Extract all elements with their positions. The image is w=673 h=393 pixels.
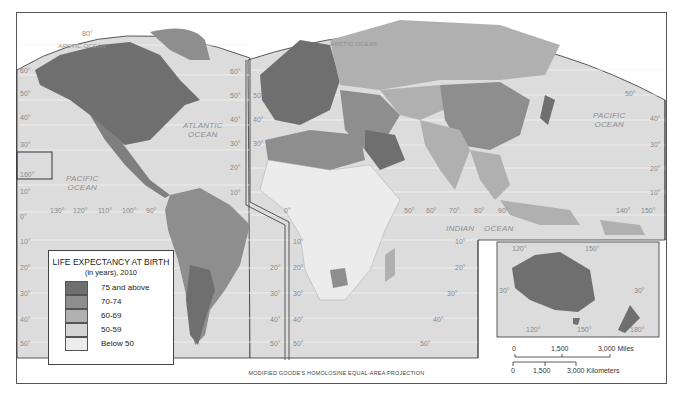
inset-lat-label: 30° [499, 287, 510, 294]
legend-swatch-50-59 [65, 323, 88, 337]
legend-label: 75 and above [101, 283, 150, 292]
lat-label-80: 80° [82, 30, 93, 37]
ocean-pacific-west-line2: OCEAN [66, 183, 98, 192]
inset-lon-label: 180° [630, 326, 644, 333]
legend-swatch-60-69 [65, 309, 88, 323]
inset-lon-label: 150° [585, 245, 599, 252]
lat-label: 10° [230, 189, 241, 196]
scale-miles-1500: 1,500 [551, 345, 569, 352]
lat-label: 50° [253, 92, 264, 99]
lat-label: 40° [433, 316, 444, 323]
lat-label: 10° [20, 238, 31, 245]
lon-label: 100° [122, 207, 136, 214]
ocean-label-arctic-east: ARCTIC OCEAN [330, 40, 378, 49]
ocean-pacific-east-line1: PACIFIC [593, 111, 625, 120]
legend-swatch-75-above [65, 281, 88, 295]
inset-lat-label: 30° [634, 287, 645, 294]
ocean-label-arctic-west: ARCTIC OCEAN [58, 42, 106, 51]
lat-label: 10° [455, 238, 466, 245]
lat-label: 20° [293, 264, 304, 271]
lat-label: 20° [455, 264, 466, 271]
inset-lon-label: 120° [512, 245, 526, 252]
lat-label: 30° [650, 141, 661, 148]
ocean-label-atlantic: ATLANTIC OCEAN [183, 121, 223, 139]
legend-swatch-70-74 [65, 295, 88, 309]
lat-label: 50° [20, 340, 31, 347]
ocean-label-indian-1: INDIAN [446, 224, 474, 233]
lat-label: 40° [230, 116, 241, 123]
lat-label: 50° [625, 90, 636, 97]
lat-label: 10° [293, 238, 304, 245]
lat-label: 30° [20, 290, 31, 297]
lon-label: 120° [73, 207, 87, 214]
ocean-atlantic-line1: ATLANTIC [183, 121, 223, 130]
inset-lon-label: 150° [577, 326, 591, 333]
lat-label: 50° [420, 340, 431, 347]
legend-label: Below 50 [101, 339, 134, 348]
lon-label: 80° [474, 207, 485, 214]
lat-label: 10° [20, 188, 31, 195]
lat-label: 20° [270, 264, 281, 271]
legend-title: LIFE EXPECTANCY AT BIRTH [49, 257, 173, 267]
lat-label: 20° [20, 264, 31, 271]
lat-label: 30° [20, 141, 31, 148]
lat-label: 40° [650, 115, 661, 122]
lat-label: 40° [20, 316, 31, 323]
legend-swatch-below-50 [65, 337, 88, 351]
lat-label: 0° [20, 213, 27, 220]
botswana [330, 268, 348, 288]
ocean-label-indian-2: OCEAN [484, 224, 513, 233]
lat-label: 40° [253, 116, 264, 123]
lon-label: 90° [146, 207, 157, 214]
lat-label: 40° [293, 316, 304, 323]
lat-label: 40° [20, 114, 31, 121]
scale-miles-3000: 3,000 Miles [598, 345, 634, 352]
lat-label: 50° [230, 92, 241, 99]
ocean-atlantic-line2: OCEAN [183, 130, 223, 139]
legend-subtitle: (in years), 2010 [49, 268, 173, 277]
projection-note: MODIFIED GOODE'S HOMOLOSINE EQUAL-AREA P… [0, 370, 673, 376]
lon-label: 60° [426, 207, 437, 214]
legend: LIFE EXPECTANCY AT BIRTH (in years), 201… [48, 250, 174, 365]
scale-bars [513, 354, 610, 366]
ocean-label-pacific-west: PACIFIC OCEAN [66, 174, 98, 192]
lon-label: 110° [98, 207, 112, 214]
lat-label: 60° [230, 68, 241, 75]
lat-label: 30° [270, 290, 281, 297]
lat-label: 160° [20, 171, 34, 178]
ocean-label-pacific-east: PACIFIC OCEAN [593, 111, 625, 129]
lat-label: 60° [20, 67, 31, 74]
inset-lon-label: 120° [526, 326, 540, 333]
lon-label: 0° [284, 207, 291, 214]
legend-label: 60-69 [101, 311, 121, 320]
lat-label: 30° [447, 290, 458, 297]
lat-label: 30° [253, 140, 264, 147]
ocean-pacific-east-line2: OCEAN [593, 120, 625, 129]
lat-label: 10° [650, 189, 661, 196]
lon-label: 50° [404, 207, 415, 214]
lon-label: 70° [449, 207, 460, 214]
lat-label: 20° [650, 165, 661, 172]
lat-label: 50° [293, 340, 304, 347]
lon-label: 140° [616, 207, 630, 214]
legend-label: 70-74 [101, 297, 121, 306]
lat-label: 40° [270, 316, 281, 323]
lat-label: 50° [270, 340, 281, 347]
ocean-pacific-west-line1: PACIFIC [66, 174, 98, 183]
lat-label: 50° [20, 90, 31, 97]
lat-label: 30° [230, 140, 241, 147]
lon-label: 90° [498, 207, 509, 214]
lat-label: 30° [293, 290, 304, 297]
lat-label: 20° [230, 164, 241, 171]
lon-label: 150° [641, 207, 655, 214]
scale-miles-0: 0 [512, 345, 516, 352]
lon-label: 130° [50, 207, 64, 214]
legend-label: 50-59 [101, 325, 121, 334]
